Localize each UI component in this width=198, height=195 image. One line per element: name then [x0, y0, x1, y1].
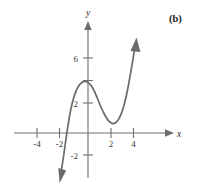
x-tick-label--4: -4	[33, 139, 41, 149]
y-axis	[83, 21, 93, 178]
x-tick-label-4: 4	[131, 139, 136, 149]
x-axis-label: x	[176, 129, 182, 139]
plotted-curve	[58, 38, 140, 184]
curve-lower-arrowhead	[58, 168, 66, 183]
y-tick-label-6: 6	[74, 54, 79, 64]
y-tick-label--2: -2	[71, 151, 79, 161]
graph-canvas: -4 -2 2 4 6 2 -2 x y	[0, 0, 198, 195]
x-tick-label-2: 2	[109, 139, 114, 149]
x-axis-arrowhead	[165, 129, 174, 136]
y-tick-label-2: 2	[74, 99, 79, 109]
panel-label-b: (b)	[169, 13, 182, 24]
figure-panel-b: -4 -2 2 4 6 2 -2 x y	[0, 0, 198, 195]
x-axis	[14, 128, 174, 138]
curve-upper-arrowhead	[131, 38, 141, 53]
y-axis-label: y	[85, 8, 91, 18]
y-axis-arrowhead	[84, 21, 91, 30]
x-tick-label--2: -2	[56, 139, 64, 149]
